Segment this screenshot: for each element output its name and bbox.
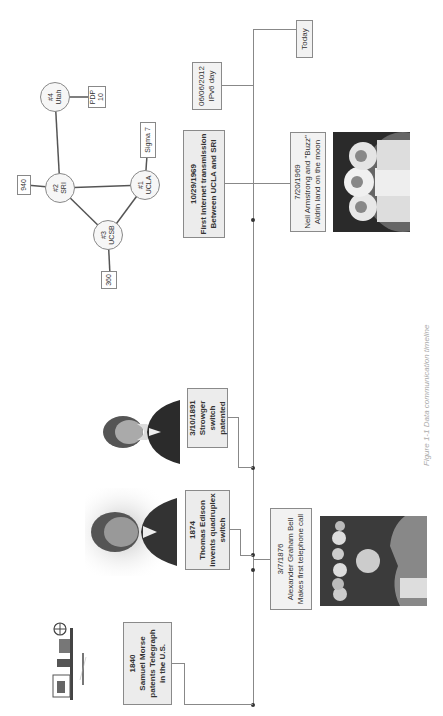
host-pdp10: PDP 10 [88, 86, 106, 108]
node-name: Utah [55, 90, 63, 105]
host-label: 940 [20, 179, 28, 191]
host-label: 360 [105, 274, 113, 286]
caption-text: Figure 1-1 Data communication timeline [422, 325, 431, 466]
node-number: #4 [47, 93, 55, 101]
node-number: #1 [137, 181, 145, 189]
node-ucsb: #3 UCSB [93, 220, 123, 250]
host-label: Sigma 7 [144, 127, 152, 153]
node-sri: #2 SRI [45, 173, 75, 203]
node-ucla: #1 UCLA [130, 170, 160, 200]
timeline-figure: 1840 Samuel Morse patents Telegraph in t… [0, 0, 443, 716]
node-name: UCLA [145, 176, 153, 195]
arpanet-links [0, 0, 443, 716]
host-label: PDP [89, 90, 97, 104]
node-name: SRI [60, 182, 68, 194]
node-number: #2 [52, 184, 60, 192]
host-label: 10 [97, 93, 105, 101]
host-360: 360 [101, 271, 117, 289]
host-940: 940 [17, 175, 31, 195]
figure-caption: Figure 1-1 Data communication timeline [422, 325, 431, 466]
node-number: #3 [100, 231, 108, 239]
host-sigma7: Sigma 7 [140, 122, 156, 158]
node-utah: #4 Utah [40, 82, 70, 112]
node-name: UCSB [108, 225, 116, 244]
